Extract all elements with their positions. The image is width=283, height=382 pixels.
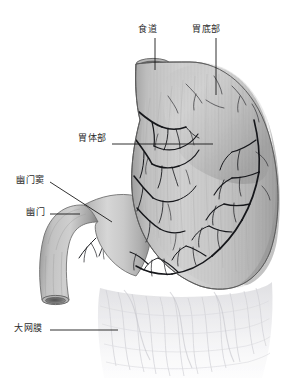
label-pylorus: 幽门 [26,208,45,217]
stomach-body [126,58,283,294]
label-pyloric-antrum: 幽门窦 [16,176,45,185]
greater-omentum [98,282,273,378]
label-gastric-body: 胃体部 [78,134,107,143]
label-esophagus: 食道 [138,25,157,34]
label-gastric-fundus: 胃底部 [192,25,221,34]
label-greater-omentum: 大网膜 [14,324,43,333]
